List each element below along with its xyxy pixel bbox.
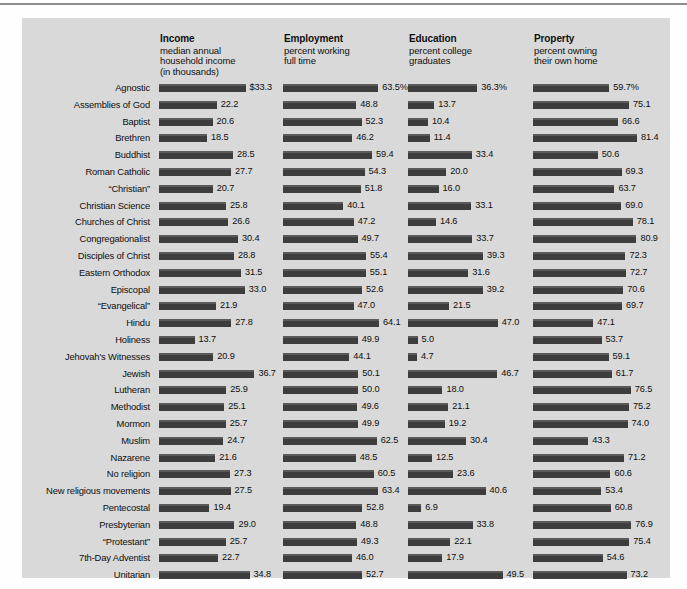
bar-education xyxy=(408,470,453,478)
bar-value-income: 26.6 xyxy=(232,216,249,226)
bar-income xyxy=(159,470,230,478)
bar-cell-income: 18.5 xyxy=(159,130,283,147)
bar-value-employment: 59.4 xyxy=(376,149,393,159)
bar-cell-education: 19.2 xyxy=(408,416,533,433)
row-label: Brethren xyxy=(22,132,150,143)
bar-cell-income: 25.9 xyxy=(159,382,283,399)
bar-value-education: 21.5 xyxy=(453,300,470,310)
bar-education xyxy=(408,252,483,260)
row-label: Churches of Christ xyxy=(22,216,150,227)
bar-value-income: 25.7 xyxy=(230,536,247,546)
bar-cell-property: 71.2 xyxy=(533,450,670,467)
bar-cell-employment: 63.4 xyxy=(283,483,408,500)
bar-cell-education: 46.7 xyxy=(408,366,533,383)
row-label: Pentecostal xyxy=(22,502,150,513)
row-label: Christian Science xyxy=(22,200,150,211)
bar-education xyxy=(408,269,468,277)
chart-row: Methodist25.149.621.175.2 xyxy=(22,399,670,416)
bar-income xyxy=(159,218,228,226)
bar-value-employment: 60.5 xyxy=(378,468,395,478)
bar-cell-income: 26.6 xyxy=(159,214,283,231)
bar-cell-income: 27.7 xyxy=(159,164,283,181)
row-label: “Protestant” xyxy=(22,536,150,547)
column-header-income: Income median annual household income (i… xyxy=(160,34,236,77)
bar-cell-employment: 60.5 xyxy=(283,466,408,483)
bar-cell-employment: 52.8 xyxy=(283,500,408,517)
row-label: Episcopal xyxy=(22,284,150,295)
bar-value-income: 18.5 xyxy=(211,132,228,142)
bar-employment xyxy=(283,353,349,361)
bar-value-income: $33.3 xyxy=(250,82,273,92)
bar-value-property: 54.6 xyxy=(607,552,624,562)
bar-property xyxy=(533,185,614,193)
bar-education xyxy=(408,521,473,529)
bar-cell-employment: 62.5 xyxy=(283,433,408,450)
bar-value-property: 60.8 xyxy=(615,502,632,512)
bar-cell-property: 72.3 xyxy=(533,248,670,265)
bar-value-employment: 52.3 xyxy=(366,116,383,126)
bar-value-employment: 48.8 xyxy=(360,99,377,109)
bar-value-income: 24.7 xyxy=(227,435,244,445)
bar-income xyxy=(159,235,238,243)
bar-education xyxy=(408,84,477,92)
bar-property xyxy=(533,504,611,512)
chart-row: Jewish36.750.146.761.7 xyxy=(22,366,670,383)
bar-value-education: 36.3% xyxy=(481,82,507,92)
bar-value-property: 70.6 xyxy=(627,284,644,294)
bar-value-income: 21.6 xyxy=(219,452,236,462)
bar-value-property: 81.4 xyxy=(641,132,658,142)
bar-education xyxy=(408,101,434,109)
bar-value-education: 19.2 xyxy=(449,418,466,428)
bar-cell-employment: 44.1 xyxy=(283,349,408,366)
bar-cell-income: 30.4 xyxy=(159,231,283,248)
column-header-property: Property percent owning their own home xyxy=(534,34,598,67)
bar-income xyxy=(159,151,233,159)
bar-income xyxy=(159,454,215,462)
bar-value-employment: 40.1 xyxy=(347,200,364,210)
bar-value-income: 21.9 xyxy=(220,300,237,310)
bar-cell-income: 28.5 xyxy=(159,147,283,164)
chart-row: Disciples of Christ28.855.439.372.3 xyxy=(22,248,670,265)
bar-value-income: 25.9 xyxy=(230,384,247,394)
bar-cell-employment: 55.1 xyxy=(283,265,408,282)
bar-cell-education: 20.0 xyxy=(408,164,533,181)
bar-value-property: 76.5 xyxy=(635,384,652,394)
column-title-employment: Employment xyxy=(284,34,350,45)
bar-value-income: 33.0 xyxy=(249,284,266,294)
bar-cell-income: 25.7 xyxy=(159,416,283,433)
bar-cell-property: 76.9 xyxy=(533,517,670,534)
bar-income xyxy=(159,302,216,310)
bar-value-education: 18.0 xyxy=(446,384,463,394)
bar-value-property: 69.0 xyxy=(625,200,642,210)
bar-cell-education: 49.5 xyxy=(408,567,533,584)
column-header-employment: Employment percent working full time xyxy=(284,34,350,67)
row-label: Congregationalist xyxy=(22,233,150,244)
bar-value-employment: 48.8 xyxy=(360,519,377,529)
bar-cell-income: 33.0 xyxy=(159,282,283,299)
chart-row: Pentecostal19.452.86.960.8 xyxy=(22,500,670,517)
bar-cell-property: 69.3 xyxy=(533,164,670,181)
bar-value-income: 22.7 xyxy=(222,552,239,562)
bar-value-income: 27.7 xyxy=(235,166,252,176)
bar-employment xyxy=(283,151,372,159)
bar-income xyxy=(159,554,218,562)
bar-property xyxy=(533,487,601,495)
bar-value-employment: 47.2 xyxy=(358,216,375,226)
bar-cell-income: 20.6 xyxy=(159,114,283,131)
bar-value-property: 72.7 xyxy=(630,267,647,277)
bar-cell-education: 23.6 xyxy=(408,466,533,483)
bar-value-employment: 63.5% xyxy=(382,82,408,92)
bar-employment xyxy=(283,235,358,243)
chart-row: Jehovah’s Witnesses20.944.14.759.1 xyxy=(22,349,670,366)
bar-value-education: 12.5 xyxy=(436,452,453,462)
bar-cell-education: 33.7 xyxy=(408,231,533,248)
chart-row: Presbyterian29.048.833.876.9 xyxy=(22,517,670,534)
bar-value-income: 20.7 xyxy=(217,183,234,193)
bar-value-property: 60.6 xyxy=(614,468,631,478)
bar-cell-income: 25.7 xyxy=(159,534,283,551)
bar-cell-employment: 48.5 xyxy=(283,450,408,467)
bar-cell-education: 47.0 xyxy=(408,315,533,332)
bar-cell-property: 75.1 xyxy=(533,97,670,114)
bar-value-property: 69.3 xyxy=(626,166,643,176)
bar-value-property: 73.2 xyxy=(631,569,648,579)
